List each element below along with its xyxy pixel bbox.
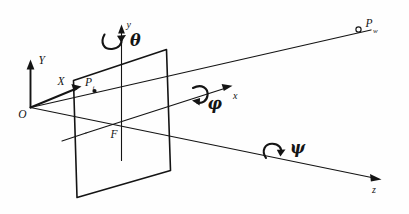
origin-label: O xyxy=(18,108,27,120)
world-point-subscript: w xyxy=(373,27,378,35)
z-axis-arrowhead xyxy=(370,174,382,182)
camera-x-axis-line xyxy=(86,88,226,133)
world-x-axis-label: X xyxy=(57,75,66,87)
camera-y-axis-label: y xyxy=(126,19,132,30)
camera-y-axis-arrowhead xyxy=(118,25,125,34)
camera-x-axis-label: x xyxy=(232,90,238,101)
world-y-axis-label: Y xyxy=(39,54,47,66)
camera-z-axis-label: z xyxy=(371,184,376,195)
world-point-label: P xyxy=(365,17,373,29)
psi-symbol-label: ψ xyxy=(290,138,306,157)
world-point-dot xyxy=(356,27,361,32)
diagram-canvas: O Y X y x z F P i P w θ φ ψ xyxy=(0,0,409,214)
theta-symbol-label: θ xyxy=(130,31,141,50)
camera-x-axis-stub xyxy=(62,133,86,141)
image-point-subscript: i xyxy=(93,84,95,92)
focal-point-label: F xyxy=(110,128,119,140)
optical-axis-line xyxy=(31,108,375,179)
psi-arc-arrowhead xyxy=(277,150,286,157)
image-point-label: P xyxy=(84,76,92,88)
camera-x-axis-arrowhead xyxy=(222,84,233,91)
world-y-axis-arrowhead xyxy=(27,60,35,70)
diagram-svg: O Y X y x z F P i P w θ φ ψ xyxy=(0,0,409,214)
theta-rotation-icon xyxy=(103,35,126,50)
phi-symbol-label: φ xyxy=(208,94,223,113)
optical-axis xyxy=(31,108,382,182)
theta-arc-arrowhead xyxy=(117,35,126,43)
